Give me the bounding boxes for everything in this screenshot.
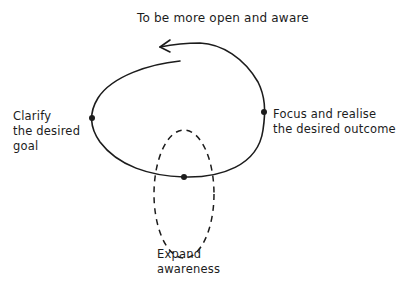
clarify-line-3: goal — [13, 139, 80, 154]
expand-line-1: Expand — [157, 247, 220, 262]
expand-line-2: awareness — [157, 262, 220, 277]
node-clarify-label: Clarify the desired goal — [13, 109, 80, 154]
focus-line-1: Focus and realise — [273, 107, 396, 122]
awareness-ellipse — [154, 130, 214, 258]
clarify-line-1: Clarify — [13, 109, 80, 124]
clarify-dot — [89, 115, 95, 121]
clarify-line-2: the desired — [13, 124, 80, 139]
cycle-loop-path — [91, 43, 264, 177]
diagram-title: To be more open and aware — [137, 11, 309, 26]
focus-line-2: the desired outcome — [273, 122, 396, 137]
expand-dot — [181, 174, 187, 180]
node-focus-label: Focus and realise the desired outcome — [273, 107, 396, 137]
focus-dot — [261, 109, 267, 115]
node-expand-label: Expand awareness — [157, 247, 220, 277]
